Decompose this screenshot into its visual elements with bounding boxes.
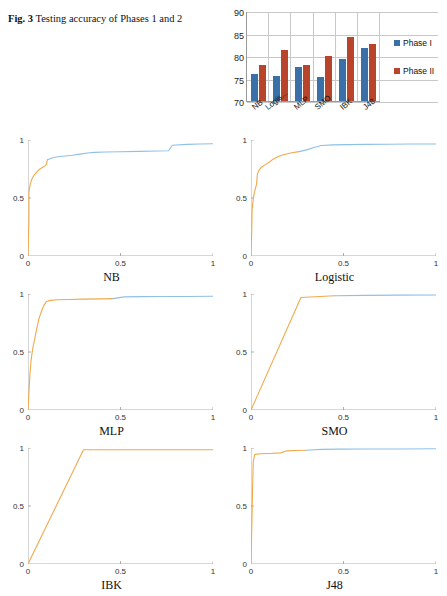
roc-chart-mlp: 00.5100.51MLP <box>0 288 223 442</box>
roc-x-tick-label: 1 <box>211 413 215 422</box>
roc-chart-title: NB <box>0 270 223 285</box>
roc-y-tick-label: 0 <box>243 252 247 261</box>
roc-x-tick-label: 0.5 <box>338 567 349 576</box>
bar-chart-y-tick-label: 70 <box>234 98 244 108</box>
roc-y-tick-label: 0 <box>20 560 24 569</box>
bar-chart-legend: Phase IPhase II <box>394 38 447 94</box>
roc-y-tick-label: 0.5 <box>236 502 247 511</box>
roc-y-tick-label: 1 <box>20 136 24 145</box>
roc-x-tick-label: 0.5 <box>338 413 349 422</box>
bar-chart-plot-area: 9085807570 <box>246 12 380 102</box>
roc-x-tick-label: 0 <box>249 413 253 422</box>
roc-chart-smo: 00.5100.51SMO <box>223 288 446 442</box>
figure-caption: Fig. 3 Testing accuracy of Phases 1 and … <box>8 12 208 25</box>
roc-plot-area: 00.5100.51 <box>28 140 213 256</box>
bar-phase-1 <box>251 74 258 101</box>
roc-y-tick-label: 0.5 <box>236 348 247 357</box>
roc-y-tick-label: 0 <box>20 252 24 261</box>
roc-x-tick-label: 1 <box>211 259 215 268</box>
roc-plot-area: 00.5100.51 <box>28 448 213 564</box>
roc-x-tick-label: 0 <box>26 567 30 576</box>
roc-chart-title: SMO <box>223 424 446 439</box>
roc-chart-title: IBK <box>0 578 223 593</box>
bar-chart-groups <box>247 12 380 101</box>
roc-chart-title: Logistic <box>223 270 446 285</box>
bar-group <box>358 12 380 101</box>
bar-phase-2 <box>259 65 266 101</box>
roc-y-tick-label: 0.5 <box>236 194 247 203</box>
roc-y-tick-label: 0.5 <box>13 194 24 203</box>
bar-group <box>336 12 358 101</box>
bar-chart-x-axis-labels: NBLogis...MLPSMOIBKJ48 <box>246 104 380 132</box>
roc-chart-nb: 00.5100.51NB <box>0 134 223 288</box>
roc-chart-title: J48 <box>223 578 446 593</box>
roc-y-tick-label: 0 <box>243 406 247 415</box>
legend-label: Phase II <box>403 66 434 76</box>
accuracy-bar-chart: 9085807570 NBLogis...MLPSMOIBKJ48 Phase … <box>222 8 444 130</box>
roc-y-tick-label: 0.5 <box>13 502 24 511</box>
roc-x-tick-label: 0 <box>249 567 253 576</box>
bar-group <box>314 12 336 101</box>
bar-chart-category-label: J48 <box>358 104 380 132</box>
roc-chart-j48: 00.5100.51J48 <box>223 442 446 596</box>
roc-y-tick-label: 1 <box>243 290 247 299</box>
figure-caption-text: Testing accuracy of Phases 1 and 2 <box>36 13 183 24</box>
bar-chart-category-label: Logis... <box>268 104 290 132</box>
bar-chart-category-label: NB <box>246 104 268 132</box>
roc-y-tick-label: 1 <box>243 136 247 145</box>
roc-plot-area: 00.5100.51 <box>251 294 436 410</box>
roc-x-tick-label: 1 <box>434 567 438 576</box>
bar-chart-y-tick-label: 80 <box>234 53 244 63</box>
bar-chart-category-label: IBK <box>335 104 357 132</box>
roc-y-tick-label: 1 <box>243 444 247 453</box>
bar-chart-y-tick-label: 75 <box>234 76 244 86</box>
roc-chart-logistic: 00.5100.51Logistic <box>223 134 446 288</box>
roc-y-tick-label: 1 <box>20 444 24 453</box>
roc-chart-title: MLP <box>0 424 223 439</box>
bar-group <box>247 12 269 101</box>
roc-y-tick-label: 0.5 <box>13 348 24 357</box>
legend-swatch <box>394 68 400 74</box>
roc-x-tick-label: 0 <box>249 259 253 268</box>
bar-group <box>291 12 313 101</box>
bar-phase-2 <box>369 44 376 101</box>
roc-plot-area: 00.5100.51 <box>251 140 436 256</box>
bar-chart-category-label: MLP <box>291 104 313 132</box>
roc-x-tick-label: 0.5 <box>115 413 126 422</box>
bar-chart-y-tick-label: 85 <box>234 31 244 41</box>
bar-phase-1 <box>339 59 346 101</box>
legend-item: Phase II <box>394 66 447 76</box>
roc-x-tick-label: 0.5 <box>338 259 349 268</box>
roc-plot-area: 00.5100.51 <box>251 448 436 564</box>
roc-x-tick-label: 1 <box>211 567 215 576</box>
roc-curve-grid: 00.5100.51NB00.5100.51Logistic00.5100.51… <box>0 134 447 596</box>
legend-label: Phase I <box>403 38 432 48</box>
roc-x-tick-label: 1 <box>434 413 438 422</box>
roc-plot-area: 00.5100.51 <box>28 294 213 410</box>
roc-y-tick-label: 0 <box>20 406 24 415</box>
bar-group <box>269 12 291 101</box>
bar-chart-category-label: SMO <box>313 104 335 132</box>
roc-y-tick-label: 0 <box>243 560 247 569</box>
roc-x-tick-label: 0 <box>26 259 30 268</box>
roc-y-tick-label: 1 <box>20 290 24 299</box>
roc-x-tick-label: 0.5 <box>115 567 126 576</box>
bar-phase-2 <box>347 37 354 101</box>
legend-swatch <box>394 40 400 46</box>
figure-number: Fig. 3 <box>8 13 33 24</box>
legend-item: Phase I <box>394 38 447 48</box>
roc-x-tick-label: 1 <box>434 259 438 268</box>
bar-phase-1 <box>361 48 368 101</box>
roc-x-tick-label: 0.5 <box>115 259 126 268</box>
roc-chart-ibk: 00.5100.51IBK <box>0 442 223 596</box>
bar-chart-y-tick-label: 90 <box>234 8 244 18</box>
roc-x-tick-label: 0 <box>26 413 30 422</box>
